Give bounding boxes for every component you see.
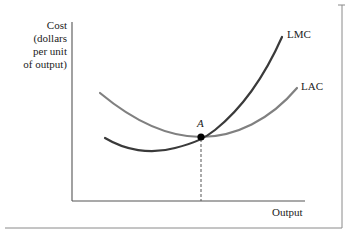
point-a-label: A	[197, 117, 204, 129]
y-axis-label-line-3: per unit	[23, 45, 67, 58]
cost-curves-figure: Cost (dollars per unit of output) LMC LA…	[0, 0, 345, 231]
y-axis-label: Cost (dollars per unit of output)	[23, 19, 67, 71]
y-axis-label-line-4: of output)	[23, 58, 67, 71]
y-axis-label-line-1: Cost	[23, 19, 67, 32]
y-axis-label-line-2: (dollars	[23, 32, 67, 45]
point-a-marker	[197, 133, 204, 140]
lmc-curve	[105, 37, 282, 151]
lac-label: LAC	[301, 80, 323, 92]
lac-curve	[100, 88, 297, 137]
x-axis-label: Output	[272, 206, 303, 218]
lmc-label: LMC	[287, 28, 311, 40]
